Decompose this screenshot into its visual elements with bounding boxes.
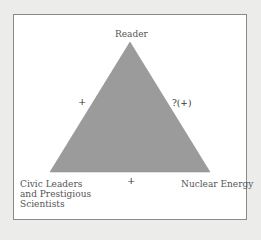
node-civic-leaders-line3: Scientists: [20, 199, 91, 209]
node-reader: Reader: [115, 29, 148, 39]
node-civic-leaders-line2: and Prestigious: [20, 189, 91, 199]
edge-left-sign: +: [78, 97, 86, 107]
node-nuclear-energy: Nuclear Energy: [181, 179, 253, 189]
edge-bottom-sign: +: [127, 176, 135, 186]
node-civic-leaders-line1: Civic Leaders: [20, 179, 91, 189]
node-civic-leaders: Civic Leaders and Prestigious Scientists: [20, 179, 91, 209]
edge-right-sign: ?(+): [172, 98, 191, 108]
